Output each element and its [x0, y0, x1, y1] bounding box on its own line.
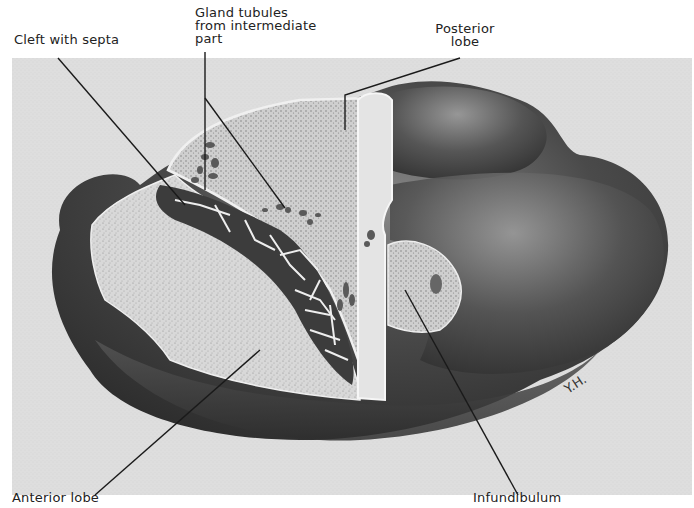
pituitary-illustration: Y.H.: [0, 0, 694, 508]
label-anterior-lobe: Anterior lobe: [12, 491, 99, 504]
label-cleft-with-septa: Cleft with septa: [14, 33, 119, 46]
label-posterior-lobe: Posterior lobe: [430, 22, 500, 48]
label-gland-tubules: Gland tubules from intermediate part: [195, 6, 316, 45]
infundibulum-nodule: [430, 274, 442, 294]
label-infundibulum: Infundibulum: [473, 491, 561, 504]
